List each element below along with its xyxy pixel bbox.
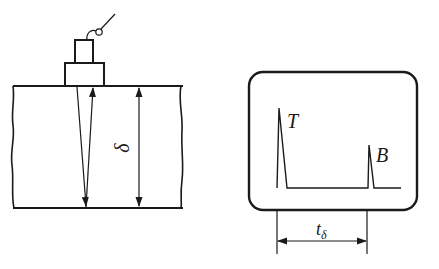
oscilloscope-screen: T B tδ bbox=[249, 72, 417, 254]
screen-frame bbox=[249, 72, 417, 210]
thickness-label: δ bbox=[111, 143, 133, 153]
incident-ray bbox=[77, 87, 86, 206]
time-label-subscript: δ bbox=[321, 228, 327, 242]
specimen-with-probe: δ bbox=[12, 14, 183, 208]
plate-left-break bbox=[12, 86, 14, 208]
probe-lower bbox=[65, 63, 104, 86]
plate-right-break bbox=[180, 86, 183, 208]
back-echo-label: B bbox=[376, 144, 388, 166]
cable-connector-icon bbox=[96, 29, 102, 35]
probe-cable bbox=[87, 30, 96, 40]
ultrasonic-thickness-diagram: δ T B tδ bbox=[0, 0, 439, 269]
probe-upper bbox=[75, 40, 93, 63]
initial-pulse-label: T bbox=[287, 110, 300, 132]
reflected-ray bbox=[86, 88, 93, 207]
time-label: tδ bbox=[316, 219, 327, 242]
cable-line bbox=[101, 14, 115, 29]
